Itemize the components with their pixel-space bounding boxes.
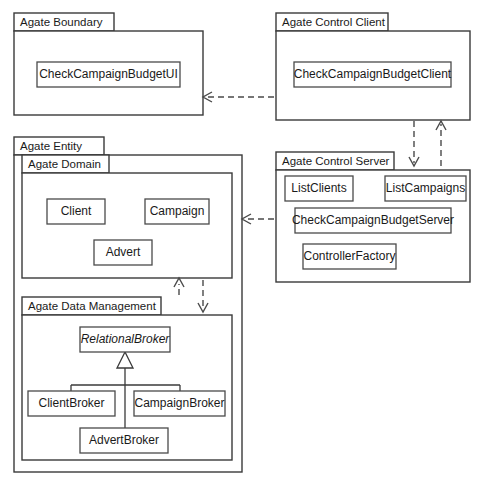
package-agate-boundary[interactable]: Agate Boundary CheckCampaignBudgetUI: [14, 13, 203, 115]
class-name-label: Client: [61, 204, 92, 218]
class-name-label: Advert: [106, 245, 141, 259]
class-listclients[interactable]: ListClients: [285, 176, 353, 201]
class-advert[interactable]: Advert: [94, 240, 152, 265]
package-label-agate-data-management: Agate Data Management: [28, 300, 157, 312]
class-name-label: ControllerFactory: [303, 249, 395, 263]
dependency-control-client-to-control-server: [409, 121, 419, 166]
class-relationalbroker[interactable]: RelationalBroker: [80, 327, 170, 352]
class-name-label: Campaign: [150, 204, 205, 218]
dependency-control-server-to-control-client: [436, 121, 446, 166]
class-name-label: CheckCampaignBudgetUI: [39, 67, 178, 81]
class-checkcampaignbudgetserver[interactable]: CheckCampaignBudgetServer: [292, 208, 454, 233]
dependency-control-client-to-boundary: [203, 92, 274, 102]
class-name-label: CheckCampaignBudgetServer: [292, 213, 454, 227]
package-label-agate-entity: Agate Entity: [20, 140, 82, 152]
class-name-label: AdvertBroker: [89, 433, 159, 447]
class-clientbroker[interactable]: ClientBroker: [28, 391, 115, 416]
class-listcampaigns[interactable]: ListCampaigns: [385, 176, 466, 201]
package-agate-control-server[interactable]: Agate Control Server ListClients ListCam…: [276, 152, 470, 282]
class-name-label: ClientBroker: [38, 396, 104, 410]
uml-package-diagram: Agate Boundary CheckCampaignBudgetUI Aga…: [0, 0, 483, 482]
dependency-control-server-to-entity: [242, 214, 274, 224]
class-campaign[interactable]: Campaign: [145, 199, 209, 224]
package-agate-domain[interactable]: Agate Domain Client Campaign Advert: [22, 155, 232, 278]
class-client[interactable]: Client: [47, 199, 105, 224]
class-name-label: ListCampaigns: [386, 181, 465, 195]
diagram-canvas: Agate Boundary CheckCampaignBudgetUI Aga…: [0, 0, 483, 482]
package-agate-data-management[interactable]: Agate Data Management RelationalBroker: [22, 297, 232, 460]
class-name-label: CampaignBroker: [134, 396, 224, 410]
package-label-agate-control-server: Agate Control Server: [282, 155, 390, 167]
package-agate-control-client[interactable]: Agate Control Client CheckCampaignBudget…: [276, 13, 470, 120]
class-name-label: ListClients: [291, 181, 346, 195]
class-advertbroker[interactable]: AdvertBroker: [80, 428, 168, 453]
class-name-label: RelationalBroker: [81, 332, 171, 346]
package-label-agate-domain: Agate Domain: [28, 158, 101, 170]
class-controllerfactory[interactable]: ControllerFactory: [303, 244, 396, 269]
class-name-label: CheckCampaignBudgetClient: [294, 67, 452, 81]
class-checkcampaignbudgetui[interactable]: CheckCampaignBudgetUI: [37, 62, 180, 87]
class-campaignbroker[interactable]: CampaignBroker: [134, 391, 225, 416]
package-label-agate-boundary: Agate Boundary: [20, 16, 103, 28]
package-label-agate-control-client: Agate Control Client: [282, 16, 386, 28]
class-checkcampaignbudgetclient[interactable]: CheckCampaignBudgetClient: [294, 62, 452, 87]
